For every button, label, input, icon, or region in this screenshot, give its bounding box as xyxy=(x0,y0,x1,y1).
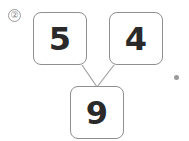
number-box-top-right: 4 xyxy=(109,12,163,65)
bullet-dot xyxy=(174,75,179,80)
number-box-top-left: 5 xyxy=(33,12,87,65)
number-box-bottom: 9 xyxy=(70,86,124,139)
